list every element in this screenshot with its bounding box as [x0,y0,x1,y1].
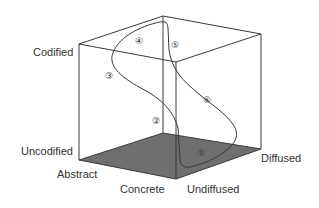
marker-1: ① [197,148,205,158]
cube-floor [79,133,261,179]
label-abstract: Abstract [57,169,97,180]
label-diffused: Diffused [261,153,301,164]
label-concrete: Concrete [120,184,165,195]
cube-diagram: ① ② ③ ④ ⑤ ⑥ [0,0,319,208]
marker-3: ③ [105,71,113,81]
marker-2: ② [152,116,160,126]
marker-5: ⑤ [171,40,179,50]
marker-4: ④ [135,36,143,46]
label-uncodified: Uncodified [21,146,73,157]
label-codified: Codified [33,47,73,58]
label-undiffused: Undiffused [187,184,239,195]
marker-6: ⑥ [203,95,211,105]
